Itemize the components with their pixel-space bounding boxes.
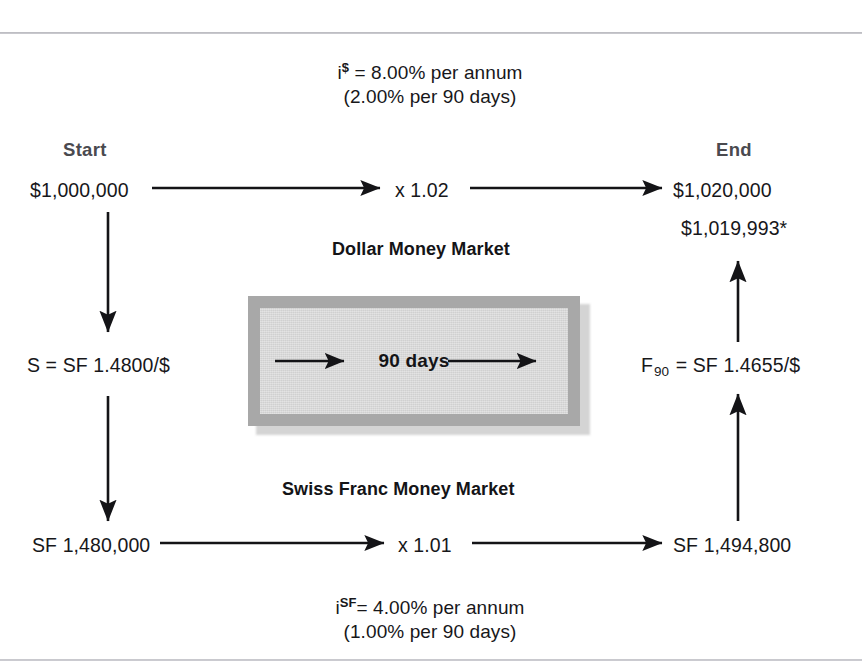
top-divider-rule — [0, 32, 862, 34]
swiss-rate-line2: (1.00% per 90 days) — [335, 620, 524, 644]
swiss-start-value: SF 1,480,000 — [32, 533, 150, 558]
dollar-rate-line1: i$ = 8.00% per annum — [337, 62, 522, 83]
dollar-rate-value: = 8.00% per annum — [349, 62, 522, 83]
end-column-label: End — [716, 138, 752, 162]
forward-rate-subscript: 90 — [653, 364, 670, 379]
bottom-divider-rule — [0, 659, 862, 661]
dollar-money-market-label: Dollar Money Market — [332, 238, 510, 261]
dollar-end-value-alternate: $1,019,993* — [681, 216, 787, 241]
forward-rate-symbol: F — [641, 354, 653, 376]
dollar-end-value: $1,020,000 — [673, 178, 772, 203]
swiss-rate-superscript: SF — [340, 595, 357, 610]
swiss-interest-rate-annotation: iSF= 4.00% per annum (1.00% per 90 days) — [335, 596, 524, 645]
ninety-days-box: 90 days — [248, 296, 590, 435]
swiss-growth-factor: x 1.01 — [398, 533, 452, 558]
swiss-rate-value: = 4.00% per annum — [356, 597, 524, 618]
forward-rate-value: = SF 1.4655/$ — [670, 354, 800, 376]
figure-canvas: i$ = 8.00% per annum (2.00% per 90 days)… — [0, 0, 862, 671]
forward-rate-label: F90 = SF 1.4655/$ — [641, 353, 800, 378]
dollar-rate-superscript: $ — [342, 60, 349, 75]
dollar-growth-factor: x 1.02 — [395, 178, 449, 203]
box-frame: 90 days — [248, 296, 580, 426]
swiss-franc-money-market-label: Swiss Franc Money Market — [282, 478, 514, 501]
swiss-rate-line1: iSF= 4.00% per annum — [335, 597, 524, 618]
swiss-end-value: SF 1,494,800 — [673, 533, 791, 558]
dollar-rate-line2: (2.00% per 90 days) — [337, 85, 522, 109]
dollar-start-value: $1,000,000 — [30, 178, 129, 203]
dollar-interest-rate-annotation: i$ = 8.00% per annum (2.00% per 90 days) — [337, 61, 522, 110]
spot-rate-label: S = SF 1.4800/$ — [27, 353, 170, 378]
start-column-label: Start — [63, 138, 107, 162]
ninety-days-label: 90 days — [378, 350, 449, 372]
